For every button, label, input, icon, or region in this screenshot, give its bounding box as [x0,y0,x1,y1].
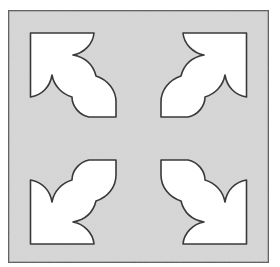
corner-ornament-tile [0,0,280,267]
